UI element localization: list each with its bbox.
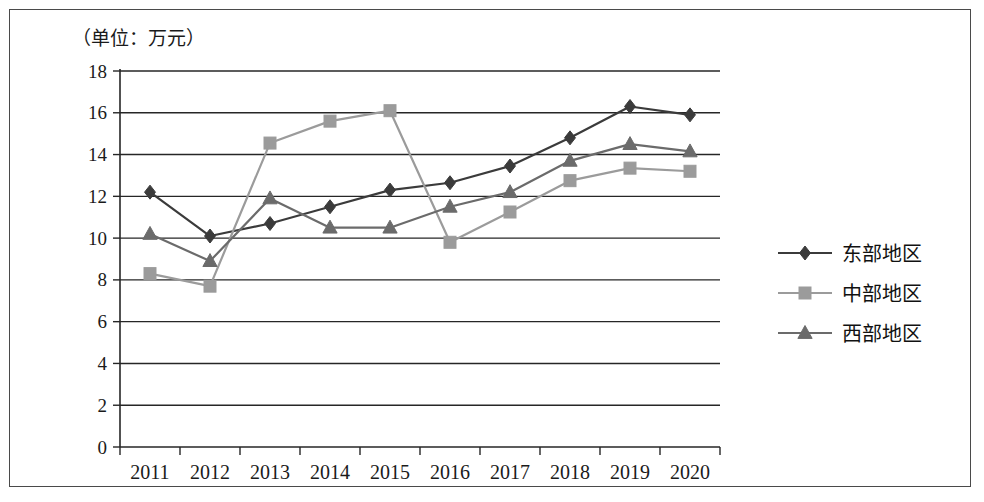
data-point	[625, 100, 636, 114]
data-point	[685, 108, 696, 122]
line-chart: （单位：万元） 024681012141618 2011201220132014…	[10, 10, 970, 486]
data-point	[504, 206, 516, 218]
y-tick-label: 14	[88, 144, 108, 165]
x-tick-label: 2013	[250, 461, 290, 483]
y-tick-label: 2	[98, 395, 108, 416]
series-line	[150, 111, 690, 286]
x-tick-label: 2011	[130, 461, 169, 483]
y-tick-label: 8	[98, 269, 108, 290]
x-tick-label: 2012	[190, 461, 230, 483]
y-tick-label: 10	[88, 228, 107, 249]
y-tick-label: 18	[88, 61, 107, 82]
data-point	[263, 191, 277, 204]
legend-label: 西部地区	[842, 323, 922, 345]
data-point	[143, 226, 157, 239]
legend-marker-square	[799, 287, 811, 299]
x-tick-labels: 2011201220132014201520162017201820192020	[130, 461, 710, 483]
x-tick-label: 2017	[490, 461, 530, 483]
legend-marker-diamond	[800, 246, 811, 260]
data-point	[204, 280, 216, 292]
data-point	[684, 165, 696, 177]
x-tick-label: 2018	[550, 461, 590, 483]
data-point	[144, 268, 156, 280]
y-tick-marks	[113, 71, 120, 447]
y-tick-label: 12	[88, 186, 107, 207]
legend-label: 东部地区	[842, 243, 922, 265]
legend-item-2[interactable]: 中部地区	[778, 283, 922, 305]
data-point	[264, 137, 276, 149]
legend-item-1[interactable]: 东部地区	[778, 243, 922, 265]
figure-frame: （单位：万元） 024681012141618 2011201220132014…	[9, 9, 971, 487]
data-point	[565, 131, 576, 145]
chart-legend: 东部地区中部地区西部地区	[778, 243, 922, 345]
data-point	[445, 176, 456, 190]
data-point	[623, 137, 637, 150]
data-point	[384, 105, 396, 117]
x-tick-label: 2020	[670, 461, 710, 483]
legend-item-3[interactable]: 西部地区	[778, 323, 922, 345]
data-point	[324, 115, 336, 127]
x-tick-label: 2016	[430, 461, 470, 483]
x-tick-label: 2014	[310, 461, 350, 483]
x-tick-marks	[120, 447, 720, 455]
series-line	[150, 144, 690, 261]
data-point	[325, 200, 336, 214]
y-tick-label: 6	[98, 311, 108, 332]
y-tick-label: 16	[88, 102, 107, 123]
x-tick-label: 2019	[610, 461, 650, 483]
data-point	[205, 229, 216, 243]
x-tick-label: 2015	[370, 461, 410, 483]
data-point	[265, 216, 276, 230]
data-point	[503, 185, 517, 198]
y-tick-labels: 024681012141618	[88, 61, 108, 458]
data-point	[145, 185, 156, 199]
y-tick-label: 4	[98, 353, 108, 374]
legend-label: 中部地区	[842, 283, 922, 305]
data-point	[385, 183, 396, 197]
data-point	[564, 175, 576, 187]
data-point	[505, 159, 516, 173]
series-2	[144, 105, 696, 292]
y-tick-label: 0	[98, 437, 108, 458]
data-point	[444, 236, 456, 248]
unit-note: （单位：万元）	[72, 28, 205, 49]
data-point	[624, 162, 636, 174]
